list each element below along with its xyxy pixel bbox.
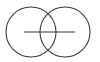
diagram-canvas [0, 0, 100, 62]
two-circles-symbol [0, 0, 100, 62]
